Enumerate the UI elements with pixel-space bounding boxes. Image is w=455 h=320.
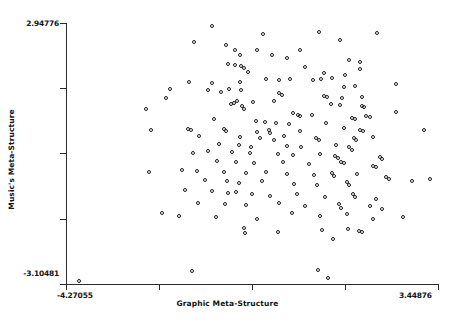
scatter-point [160,211,164,215]
scatter-point [332,174,336,178]
scatter-point [227,87,231,91]
scatter-point [285,144,289,148]
scatter-point [267,128,271,132]
scatter-point [232,101,236,105]
x-axis-tick-0 [66,284,67,290]
scatter-point [258,136,262,140]
x-axis-tick-3 [345,284,346,290]
scatter-point [317,138,321,142]
scatter-point [312,173,316,177]
scatter-point [164,96,168,100]
scatter-point [347,58,351,62]
scatter-point [246,70,250,74]
scatter-point [272,99,276,103]
scatter-point [263,120,267,124]
scatter-point [244,171,248,175]
scatter-point [248,151,252,155]
scatter-point [291,153,295,157]
scatter-point [315,183,319,187]
x-axis-title: Graphic Meta-Structure [0,299,455,308]
scatter-point [287,122,291,126]
scatter-point [317,30,321,34]
scatter-point [311,78,315,82]
scatter-point [240,104,244,108]
scatter-point [276,230,280,234]
scatter-point [264,77,268,81]
scatter-point [326,276,330,280]
scatter-point [322,94,326,98]
scatter-point [238,53,242,57]
scatter-point [351,192,355,196]
y-axis-tick-1 [60,88,66,89]
scatter-point [217,142,221,146]
scatter-point [295,192,299,196]
scatter-point [268,131,272,135]
y-axis-tick-0 [60,23,66,24]
scatter-point [222,127,226,131]
scatter-point [234,160,238,164]
scatter-point [255,48,259,52]
scatter-point [355,172,359,176]
scatter-point [422,128,426,132]
scatter-point [147,170,151,174]
y-axis-max-label: 2.94776 [26,19,59,28]
scatter-point [345,180,349,184]
scatter-point [223,202,227,206]
scatter-point [291,111,295,115]
scatter-point [401,215,405,219]
scatter-point [177,214,181,218]
scatter-point [189,128,193,132]
scatter-point [285,172,289,176]
scatter-point [330,76,334,80]
scatter-point [339,160,343,164]
scatter-point [358,60,362,64]
scatter-point [310,113,314,117]
scatter-point [358,67,362,71]
scatter-point [239,88,243,92]
scatter-point [333,154,337,158]
scatter-point [371,217,375,221]
scatter-point [225,179,229,183]
scatter-point [350,148,354,152]
scatter-point [334,143,338,147]
scatter-point [187,80,191,84]
scatter-point [242,226,246,230]
scatter-point [353,195,357,199]
scatter-point [255,130,259,134]
scatter-point [350,116,354,120]
scatter-point [280,93,284,97]
scatter-point [336,156,340,160]
scatter-point [319,77,323,81]
scatter-point [358,128,362,132]
scatter-point [318,152,322,156]
scatter-point [230,150,234,154]
x-axis-tick-1 [159,284,160,290]
scatter-point [268,194,272,198]
scatter-point [197,134,201,138]
scatter-point [394,82,398,86]
scatter-point [210,189,214,193]
scatter-point [410,179,414,183]
scatter-point [219,90,223,94]
scatter-point [353,84,357,88]
scatter-point [168,87,172,91]
scatter-point [274,121,278,125]
scatter-point [242,107,246,111]
scatter-point [298,114,302,118]
scatter-point [346,227,350,231]
scatter-point [337,202,341,206]
scatter-point [243,231,247,235]
scatter-point [347,183,351,187]
scatter-point [206,88,210,92]
scatter-point [233,48,237,52]
scatter-plot-figure: 2.94776 -3.10481 -4.27055 3.44876 Graphi… [0,0,455,320]
x-axis-tick-4 [438,284,439,290]
scatter-point [229,102,233,106]
scatter-point [387,177,391,181]
scatter-point [264,170,268,174]
scatter-point [277,91,281,95]
scatter-point [357,229,361,233]
scatter-point [338,38,342,42]
scatter-point [260,179,264,183]
scatter-point [371,164,375,168]
